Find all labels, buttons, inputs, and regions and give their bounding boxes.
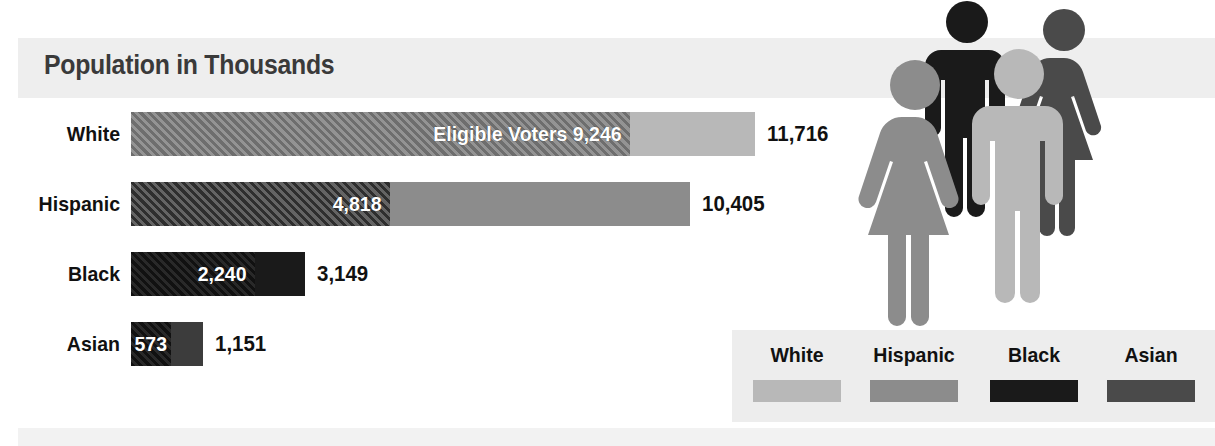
legend-item-hispanic[interactable]: Hispanic bbox=[859, 340, 969, 402]
bar-eligible-label-white: Eligible Voters 9,246 bbox=[433, 112, 622, 156]
population-infographic: Population in Thousands White Eligible V… bbox=[0, 0, 1215, 446]
bar-eligible-hispanic: 4,818 bbox=[131, 182, 390, 226]
bar-label-hispanic: Hispanic bbox=[8, 182, 120, 226]
people-pictogram bbox=[842, 0, 1172, 330]
legend-label-white: White bbox=[746, 340, 848, 370]
bar-eligible-label-asian: 573 bbox=[134, 322, 167, 366]
bar-total-label-asian: 1,151 bbox=[215, 322, 266, 366]
bar-eligible-black: 2,240 bbox=[131, 252, 255, 296]
bar-label-asian: Asian bbox=[8, 322, 120, 366]
bar-track-white: Eligible Voters 9,246 11,716 bbox=[131, 112, 755, 156]
bar-label-black: Black bbox=[8, 252, 120, 296]
legend-swatch-white bbox=[753, 380, 841, 402]
bar-label-white: White bbox=[8, 112, 120, 156]
bar-eligible-asian: 573 bbox=[131, 322, 171, 366]
bar-total-label-hispanic: 10,405 bbox=[702, 182, 765, 226]
legend-item-white[interactable]: White bbox=[742, 340, 852, 402]
legend-swatch-asian bbox=[1107, 380, 1195, 402]
legend-item-black[interactable]: Black bbox=[979, 340, 1089, 402]
bar-eligible-label-hispanic: 4,818 bbox=[333, 182, 382, 226]
bar-track-black: 2,240 3,149 bbox=[131, 252, 305, 296]
hispanic-female-figure bbox=[858, 60, 958, 326]
legend-label-black: Black bbox=[983, 340, 1085, 370]
bar-eligible-label-black: 2,240 bbox=[198, 252, 247, 296]
legend-label-hispanic: Hispanic bbox=[863, 340, 965, 370]
bar-eligible-white: Eligible Voters 9,246 bbox=[131, 112, 630, 156]
legend-item-asian[interactable]: Asian bbox=[1096, 340, 1206, 402]
legend-swatch-hispanic bbox=[870, 380, 958, 402]
bar-track-asian: 573 1,151 bbox=[131, 322, 203, 366]
legend-label-asian: Asian bbox=[1100, 340, 1202, 370]
legend: White Hispanic Black Asian bbox=[732, 330, 1215, 422]
bar-total-label-white: 11,716 bbox=[767, 112, 828, 156]
legend-swatch-black bbox=[990, 380, 1078, 402]
bar-track-hispanic: 4,818 10,405 bbox=[131, 182, 690, 226]
page-title: Population in Thousands bbox=[44, 50, 334, 81]
bottom-background-band bbox=[18, 428, 1215, 446]
bar-total-label-black: 3,149 bbox=[317, 252, 368, 296]
bar-chart: White Eligible Voters 9,246 11,716 Hispa… bbox=[0, 112, 830, 402]
